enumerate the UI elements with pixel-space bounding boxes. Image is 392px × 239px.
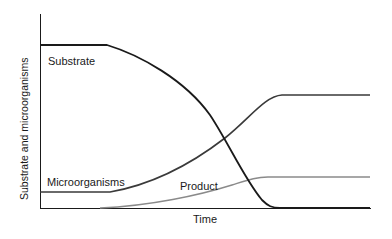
substrate-label: Substrate (48, 55, 95, 67)
x-axis-title: Time (193, 213, 217, 225)
product-label: Product (180, 180, 218, 192)
microorganisms-label: Microorganisms (47, 176, 125, 188)
growth-curve-chart: Substrate Microorganisms Product Time Su… (0, 0, 392, 239)
product-curve (100, 177, 370, 208)
y-axis-title: Substrate and microorganisms (18, 58, 30, 200)
